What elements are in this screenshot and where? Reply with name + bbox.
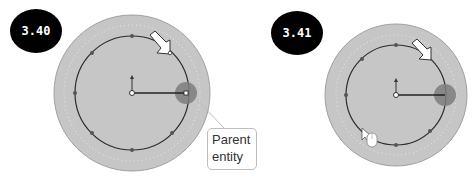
figure-3-40: 3.40	[10, 9, 225, 171]
center-point[interactable]	[394, 93, 399, 98]
callout-line-2: entity	[212, 148, 256, 165]
callout-line-1: Parent	[212, 131, 256, 148]
figure-label: 3.40	[22, 24, 51, 38]
center-point[interactable]	[130, 91, 135, 96]
endpoint-handle[interactable]	[184, 91, 188, 95]
figure-3-41: 3.41	[271, 11, 467, 166]
figure-label: 3.41	[283, 26, 312, 40]
parent-entity-callout: Parent entity	[207, 128, 257, 170]
